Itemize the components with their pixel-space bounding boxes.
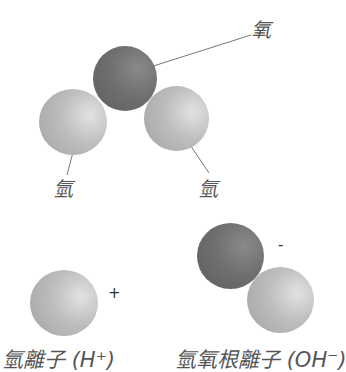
hydroxide-hydrogen-atom (247, 267, 314, 333)
oxygen-label: 氧 (251, 20, 271, 40)
hydrogen-right-label: 氫 (198, 179, 218, 199)
hydrogen-ion-atom (30, 270, 98, 336)
hydroxide-ion-caption: 氫氧根離子 (OH⁻) (175, 350, 346, 371)
hydrogen-atom-right (144, 86, 209, 151)
negative-charge: - (278, 238, 283, 253)
oxygen-atom (93, 46, 157, 111)
positive-charge: + (108, 286, 121, 301)
hydrogen-atom-left (39, 89, 107, 155)
hydrogen-ion-caption: 氫離子 (H⁺) (2, 350, 115, 371)
hydrogen-left-label: 氫 (53, 179, 73, 199)
